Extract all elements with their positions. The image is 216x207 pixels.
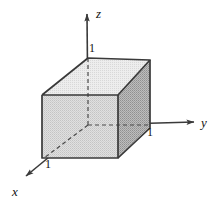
cube-front-face bbox=[42, 95, 118, 158]
z-axis-label: z bbox=[95, 6, 101, 21]
y-axis-label: y bbox=[199, 115, 207, 130]
tick-label-x-one: 1 bbox=[45, 157, 51, 171]
tick-label-z-one: 1 bbox=[89, 41, 95, 55]
x-axis-label: x bbox=[11, 184, 18, 199]
unit-cube-diagram: z y x 1 1 1 bbox=[0, 0, 216, 207]
tick-label-y-one: 1 bbox=[147, 125, 153, 139]
figure-container: z y x 1 1 1 bbox=[0, 0, 216, 207]
